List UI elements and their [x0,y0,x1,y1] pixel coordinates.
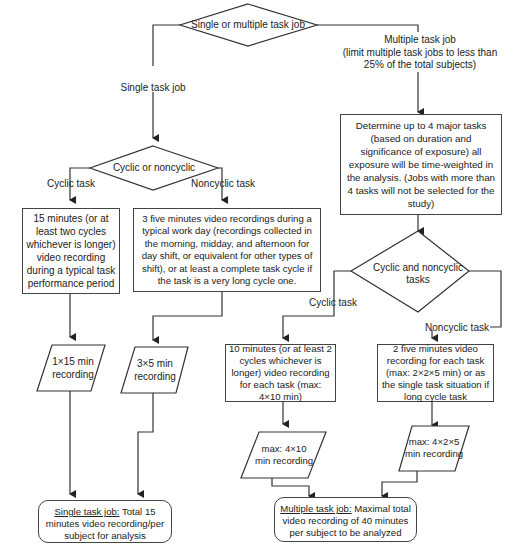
terminal-multiple-task-job: Multiple task job: Maximal total video r… [274,497,417,542]
decision-job-type-label: Single or multiple task job [186,19,310,31]
process-determine-major-tasks: Determine up to 4 major tasks (based on … [340,114,502,215]
branch-label-single-cyclic: Cyclic task [46,178,96,190]
multiple-branch-line1: Multiple task job [340,34,500,47]
multiple-branch-line3: 25% of the total subjects) [340,59,500,72]
data-single-noncyclic-label: 3×5 min recording [130,352,180,388]
data-single-cyclic-label: 1×15 min recording [48,350,98,386]
terminal-single-task-job: Single task job: Total 15 minutes video … [38,500,172,543]
terminal-single-title: Single task job: [54,506,119,517]
process-single-cyclic: 15 minutes (or at least two cycles which… [22,208,120,294]
process-multiple-noncyclic: 2 five minutes video recording for each … [377,344,494,402]
data-multiple-cyclic-label: max: 4×10 min recording [253,436,315,474]
decision-single-label: Cyclic or noncyclic [104,162,204,174]
branch-label-multiple-cyclic: Cyclic task [308,297,358,309]
branch-label-multiple-noncyclic: Noncyclic task [424,322,490,334]
multiple-branch-line2: (limit multiple task jobs to less than [340,47,500,60]
branch-label-single-task-job: Single task job [106,82,200,94]
process-multiple-cyclic: 10 minutes (or at least 2 cycles whichev… [225,344,336,402]
terminal-multiple-title: Multiple task job: [280,503,351,514]
process-single-noncyclic: 3 five minutes video recordings during a… [133,208,321,292]
branch-label-multiple-task-job: Multiple task job (limit multiple task j… [340,34,500,72]
branch-label-single-noncyclic: Noncyclic task [185,178,261,190]
decision-multiple-label: Cyclic and noncyclic tasks [372,262,464,286]
data-multiple-noncyclic-label: max: 4×2×5 min recording [404,429,464,467]
